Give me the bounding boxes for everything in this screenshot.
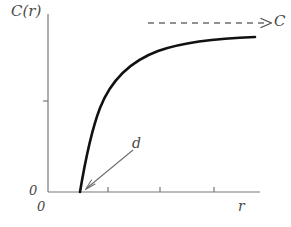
x-axis-origin-label: 0 — [37, 200, 45, 213]
concentration-curve-figure: C(r) r C d 0 0 — [0, 0, 291, 227]
onset-annotation-label: d — [132, 136, 141, 150]
asymptote-label: C — [274, 14, 285, 29]
y-axis-origin-label: 0 — [29, 184, 37, 197]
y-axis-label: C(r) — [11, 4, 41, 19]
plot-canvas — [0, 0, 291, 227]
x-axis-label: r — [238, 199, 245, 213]
onset-annotation-line — [87, 150, 133, 188]
concentration-curve — [80, 37, 255, 192]
